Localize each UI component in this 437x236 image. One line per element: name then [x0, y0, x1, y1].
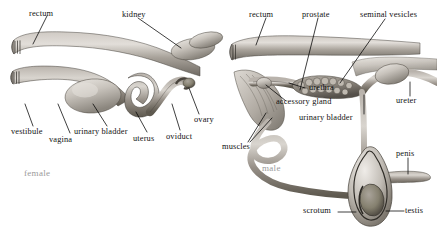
anatomy-illustration	[0, 0, 437, 236]
label-rectum-male: rectum	[249, 11, 273, 19]
leader-vestibule	[25, 104, 33, 126]
urinary-bladder-highlight-female	[72, 83, 98, 98]
caption-male: male	[262, 163, 281, 173]
label-penis: penis	[396, 150, 414, 158]
vas-deferens-loop	[251, 122, 364, 196]
leader-oviduct	[172, 104, 180, 130]
label-uterus: uterus	[133, 135, 154, 143]
label-rectum-female: rectum	[29, 10, 53, 18]
label-accessory-gland: accessory gland	[276, 98, 332, 106]
caption-female: female	[24, 168, 50, 178]
leader-vagina	[58, 104, 70, 133]
label-seminal-vesicles: seminal vesicles	[360, 11, 417, 19]
label-prostate: prostate	[302, 11, 330, 19]
label-muscles: muscles	[222, 143, 250, 151]
ovary-shape	[183, 78, 195, 88]
label-kidney-female: kidney	[122, 11, 146, 19]
female-anatomy-group	[11, 16, 224, 133]
urinary-bladder-shape-female	[64, 77, 122, 115]
anatomy-figure: rectum kidney vestibule vagina urinary b…	[0, 0, 437, 236]
rectum-shape-male	[232, 36, 420, 60]
label-ureter: ureter	[396, 97, 416, 105]
label-urinary-bladder-male: urinary bladder	[299, 114, 353, 122]
label-testis: testis	[405, 207, 423, 215]
label-scrotum: scrotum	[303, 207, 331, 215]
leader-ovary	[189, 88, 199, 114]
label-vagina: vagina	[49, 136, 72, 144]
label-urethra: urethra	[309, 84, 334, 92]
accessory-gland-shape	[257, 78, 272, 89]
label-ovary: ovary	[194, 116, 214, 124]
label-urinary-bladder-female: urinary bladder	[74, 128, 128, 136]
label-oviduct: oviduct	[166, 133, 192, 141]
label-vestibule: vestibule	[11, 128, 43, 136]
